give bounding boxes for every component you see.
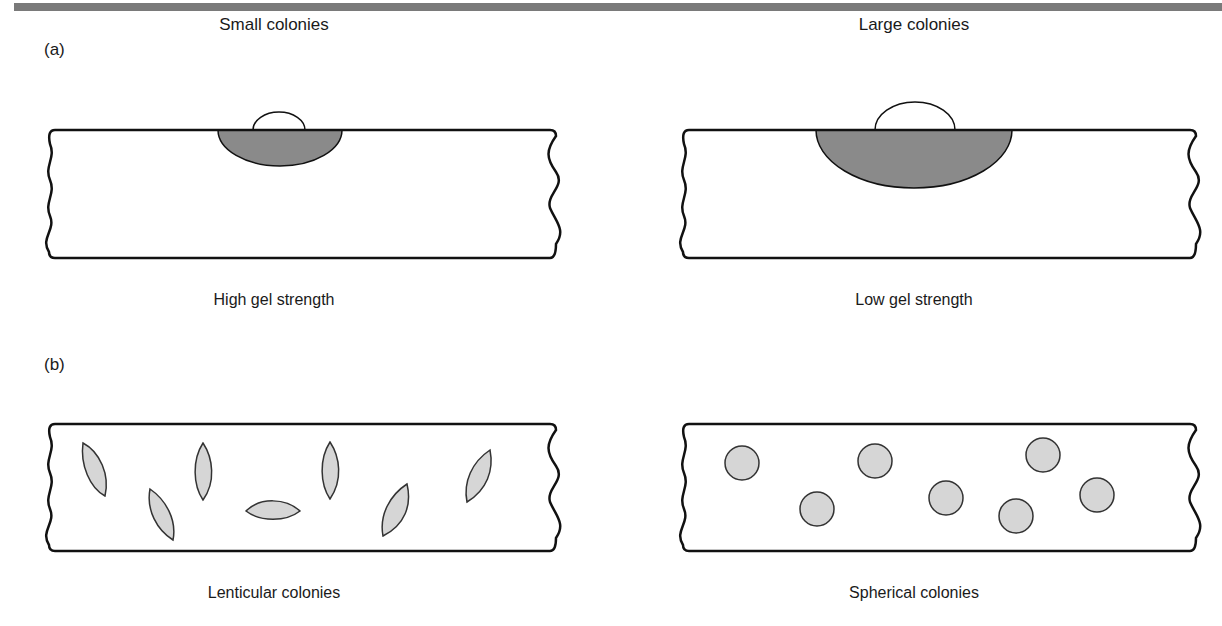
lenticular-colony (246, 501, 300, 519)
gel-slab-spherical (680, 424, 1200, 551)
lenticular-colony (82, 443, 106, 496)
spherical-colony (929, 481, 963, 515)
spherical-colony (725, 446, 759, 480)
large-colony-dome (875, 102, 955, 130)
spherical-colony (858, 444, 892, 478)
lenticular-colony (149, 489, 174, 540)
gel-slab-lenticular (46, 424, 560, 551)
lenticular-colony (195, 443, 212, 500)
small-colony-subsurface (218, 130, 342, 166)
lenticular-colony (382, 484, 408, 536)
spherical-colony (800, 492, 834, 526)
spherical-colony (1026, 438, 1060, 472)
large-colony-subsurface (816, 130, 1012, 188)
spherical-colony (999, 499, 1033, 533)
small-colony-dome (253, 112, 305, 130)
gel-slab-high-strength (46, 112, 560, 258)
diagram-canvas (0, 0, 1222, 626)
lenticular-colony (322, 442, 339, 499)
lenticular-colony (466, 450, 491, 502)
spherical-colony (1080, 478, 1114, 512)
gel-slab-low-strength (680, 102, 1200, 258)
